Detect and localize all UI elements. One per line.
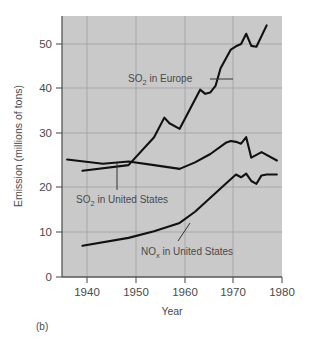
xtick-label-1950: 1950 — [123, 286, 149, 298]
ytick-label-50: 50 — [39, 38, 52, 50]
xtick-label-1960: 1960 — [172, 286, 198, 298]
xtick-label-1970: 1970 — [220, 286, 246, 298]
series-label-so2-us-main: SO — [76, 194, 91, 205]
figure-container: 50 40 30 20 10 0 1940 1950 1960 1970 198… — [0, 0, 311, 345]
x-axis-title: Year — [161, 305, 183, 317]
figure-caption: (b) — [36, 321, 48, 332]
series-label-so2-europe-main: SO — [128, 73, 143, 84]
series-label-so2-us-rest: in United States — [95, 194, 168, 205]
y-axis-title: Emission (millions of tons) — [12, 85, 24, 207]
xtick-label-1940: 1940 — [74, 286, 100, 298]
series-label-so2-europe-rest: in Europe — [147, 73, 193, 84]
ytick-label-40: 40 — [39, 82, 52, 94]
ytick-label-30: 30 — [39, 127, 52, 139]
ytick-label-0: 0 — [46, 271, 52, 283]
xtick-label-1980: 1980 — [269, 286, 295, 298]
ytick-label-20: 20 — [39, 181, 52, 193]
emission-line-chart: 50 40 30 20 10 0 1940 1950 1960 1970 198… — [0, 0, 311, 345]
ytick-label-10: 10 — [39, 226, 52, 238]
series-label-nox-rest: in United States — [160, 246, 233, 257]
series-label-nox-main: NO — [141, 246, 156, 257]
